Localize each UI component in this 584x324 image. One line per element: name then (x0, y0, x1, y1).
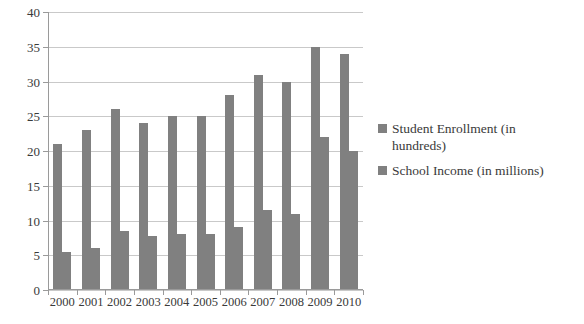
y-axis-line (48, 12, 49, 290)
bar (311, 47, 320, 290)
x-axis-tick-label: 2004 (164, 296, 189, 309)
bar (263, 210, 272, 290)
legend-label: School Income (in millions) (392, 162, 544, 179)
gridline (48, 290, 363, 291)
plot-frame: 0510152025303540 (48, 12, 363, 290)
bar (148, 236, 157, 290)
bar (206, 234, 215, 290)
x-axis-tick-label: 2007 (250, 296, 275, 309)
bar (234, 227, 243, 290)
bar (225, 95, 234, 290)
y-axis-tick-label: 10 (27, 214, 40, 227)
bar (320, 137, 329, 290)
x-axis-tick-label: 2010 (336, 296, 361, 309)
y-axis-tick (43, 116, 48, 117)
y-axis-tick (43, 151, 48, 152)
y-axis-tick-label: 0 (34, 284, 41, 297)
bar (53, 144, 62, 290)
x-axis-labels: 2000200120022003200420052006200720082009… (48, 296, 363, 316)
bar (139, 123, 148, 290)
bar (254, 75, 263, 290)
bar (62, 252, 71, 290)
y-axis-tick (43, 12, 48, 13)
bar (111, 109, 120, 290)
bar (282, 82, 291, 291)
bar (197, 116, 206, 290)
bars-layer (48, 12, 363, 290)
bar (91, 248, 100, 290)
x-axis-line (48, 289, 363, 290)
x-axis-tick-label: 2002 (107, 296, 132, 309)
y-axis-tick-label: 30 (27, 75, 40, 88)
bar (177, 234, 186, 290)
y-axis-tick-label: 15 (27, 179, 40, 192)
legend-item-school-income[interactable]: School Income (in millions) (378, 162, 578, 179)
legend-swatch-icon (378, 124, 387, 133)
y-axis-tick (43, 255, 48, 256)
y-axis-tick (43, 82, 48, 83)
x-axis-tick-label: 2009 (308, 296, 333, 309)
x-axis-tick-label: 2000 (50, 296, 75, 309)
y-axis-tick (43, 47, 48, 48)
legend: Student Enrollment (in hundreds) School … (378, 120, 578, 187)
legend-label: Student Enrollment (in hundreds) (392, 120, 572, 154)
y-axis-tick-label: 25 (27, 110, 40, 123)
y-axis-tick-label: 35 (27, 40, 40, 53)
bar-chart: 0510152025303540 20002001200220032004200… (0, 0, 584, 324)
x-axis-tick-label: 2008 (279, 296, 304, 309)
legend-swatch-icon (378, 166, 387, 175)
x-axis-tick-label: 2005 (193, 296, 218, 309)
bar (291, 214, 300, 290)
y-axis-tick-label: 40 (27, 6, 40, 19)
y-axis-tick-label: 5 (34, 249, 41, 262)
x-axis-tick-label: 2001 (78, 296, 103, 309)
x-axis-tick-label: 2006 (222, 296, 247, 309)
y-axis-tick-label: 20 (27, 145, 40, 158)
bar (120, 231, 129, 290)
bar (349, 151, 358, 290)
y-axis-tick (43, 186, 48, 187)
legend-item-student-enrollment[interactable]: Student Enrollment (in hundreds) (378, 120, 578, 154)
bar (168, 116, 177, 290)
y-axis-tick (43, 221, 48, 222)
bar (82, 130, 91, 290)
bar (340, 54, 349, 290)
x-axis-tick (363, 290, 364, 295)
x-axis-tick-label: 2003 (136, 296, 161, 309)
